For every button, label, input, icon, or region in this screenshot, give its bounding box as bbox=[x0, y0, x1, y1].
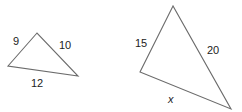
side-label-10: 10 bbox=[59, 39, 71, 51]
side-label-9: 9 bbox=[13, 35, 19, 47]
side-label-20: 20 bbox=[207, 44, 219, 56]
side-label-12: 12 bbox=[31, 77, 43, 89]
side-label-15: 15 bbox=[135, 37, 147, 49]
similar-triangles-diagram: 9 10 12 15 20 x bbox=[0, 0, 242, 112]
large-triangle-outline bbox=[140, 6, 231, 109]
large-triangle: 15 20 x bbox=[135, 6, 231, 109]
side-label-x: x bbox=[167, 93, 174, 105]
small-triangle: 9 10 12 bbox=[8, 33, 78, 89]
